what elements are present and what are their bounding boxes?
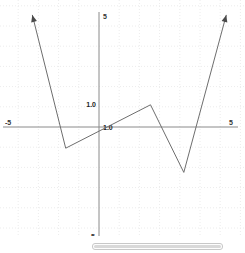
arrowhead-end-icon <box>222 15 228 23</box>
horizontal-scrollbar[interactable] <box>92 243 223 250</box>
x-max-label: 5 <box>229 119 233 126</box>
y-unit-tick-label: 1.0 <box>86 101 96 108</box>
arrowhead-start-icon <box>31 15 37 23</box>
cartesian-graph[interactable]: -5 5 5 -5 1.0 1.0 <box>0 0 245 236</box>
plot-area[interactable]: -5 5 5 -5 1.0 1.0 <box>0 0 245 236</box>
polyline-curve[interactable] <box>32 15 226 173</box>
function-curve[interactable] <box>31 15 227 173</box>
y-min-label: -5 <box>89 233 95 236</box>
grid-lines <box>0 0 245 236</box>
x-min-label: -5 <box>5 119 11 126</box>
y-max-label: 5 <box>103 13 107 20</box>
scrollbar-thumb[interactable] <box>94 245 221 248</box>
graph-widget: -5 5 5 -5 1.0 1.0 <box>0 0 245 253</box>
